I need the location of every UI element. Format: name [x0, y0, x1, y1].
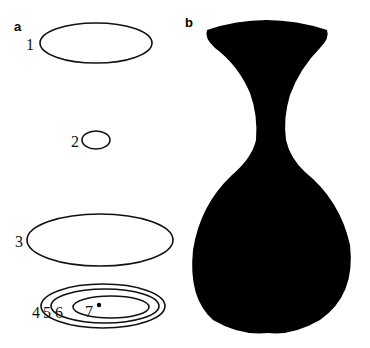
- contour-3-label: 3: [15, 233, 23, 250]
- contour-1-ellipse: [40, 23, 152, 63]
- panel-b-label: b: [185, 15, 193, 30]
- contour-5-label: 5: [43, 304, 51, 321]
- contour-3-ellipse: [27, 214, 173, 266]
- contour-2-ellipse: [82, 131, 110, 149]
- contour-2-label: 2: [71, 133, 79, 150]
- contour-7-label: 7: [85, 303, 93, 320]
- panel-b: b: [185, 15, 351, 333]
- contour-1: 1: [26, 23, 152, 63]
- vase-silhouette: [192, 20, 351, 333]
- contour-1-label: 1: [26, 36, 34, 53]
- figure: a 1 2 3 4 5 6 7 b: [0, 0, 370, 348]
- contour-6-label: 6: [55, 304, 63, 321]
- contour-4-label: 4: [32, 304, 40, 321]
- contour-2: 2: [71, 131, 110, 150]
- contour-7-point: [97, 303, 101, 307]
- nested-contours: 4 5 6 7: [32, 284, 165, 328]
- panel-a: a 1 2 3 4 5 6 7: [14, 19, 173, 328]
- contour-3: 3: [15, 214, 173, 266]
- panel-a-label: a: [14, 19, 22, 34]
